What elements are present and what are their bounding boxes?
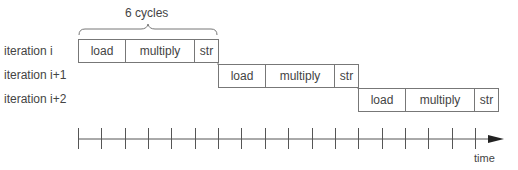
row-label-iteration-i: iteration i [4, 44, 53, 58]
cycles-brace [79, 24, 217, 35]
time-axis [78, 128, 504, 149]
iteration-row: load multiply str [78, 39, 219, 63]
stage-str: str [474, 88, 499, 112]
stage-multiply: multiply [405, 88, 474, 112]
stage-multiply: multiply [125, 39, 194, 63]
row-label-iteration-i1: iteration i+1 [4, 68, 66, 82]
stage-load: load [218, 64, 265, 88]
stage-multiply: multiply [265, 64, 334, 88]
stage-str: str [334, 64, 359, 88]
row-label-iteration-i2: iteration i+2 [4, 92, 66, 106]
brace-label: 6 cycles [125, 6, 168, 20]
axis-label: time [474, 152, 495, 164]
stage-load: load [358, 88, 405, 112]
iteration-row: load multiply str [358, 88, 499, 112]
stage-load: load [78, 39, 125, 63]
iteration-row: load multiply str [218, 64, 359, 88]
stage-str: str [194, 39, 219, 63]
